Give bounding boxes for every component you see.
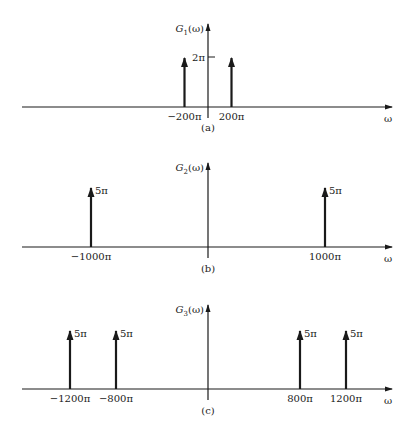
impulse-amplitude-label: 5π [329,185,342,196]
panel-caption: (b) [201,263,215,274]
impulse-x-label: 1200π [330,393,362,404]
impulse-x-label: −1200π [50,393,91,404]
x-axis-label: ω [384,253,392,264]
impulse-x-label: −800π [99,393,133,404]
y-tick-label: 2π [192,52,205,63]
impulse-x-label: 1000π [309,251,341,262]
panel-caption: (a) [201,122,215,133]
impulse-amplitude-label: 5π [95,185,108,196]
y-axis-label: G3(ω) [176,304,205,318]
panel-c: G3(ω)ω−1200π5π−800π5π800π5π1200π5π(c) [22,304,392,416]
y-axis-label: G1(ω) [176,23,205,37]
impulse-amplitude-label: 5π [304,328,317,339]
impulse-amplitude-label: 5π [74,328,87,339]
y-axis-label: G2(ω) [176,162,205,176]
x-axis-label: ω [384,395,392,406]
x-axis-label: ω [384,113,392,124]
spectra-figure: G1(ω)ω2π−200π200π(a)G2(ω)ω−1000π5π1000π5… [0,0,412,432]
impulse-amplitude-label: 5π [120,328,133,339]
impulse-x-label: −200π [167,111,201,122]
panel-a: G1(ω)ω2π−200π200π(a) [22,23,392,133]
impulse-x-label: 800π [287,393,313,404]
impulse-x-label: −1000π [71,251,112,262]
impulse-x-label: 200π [219,111,245,122]
panel-b: G2(ω)ω−1000π5π1000π5π(b) [22,162,392,274]
panel-caption: (c) [201,405,215,416]
impulse-amplitude-label: 5π [350,328,363,339]
